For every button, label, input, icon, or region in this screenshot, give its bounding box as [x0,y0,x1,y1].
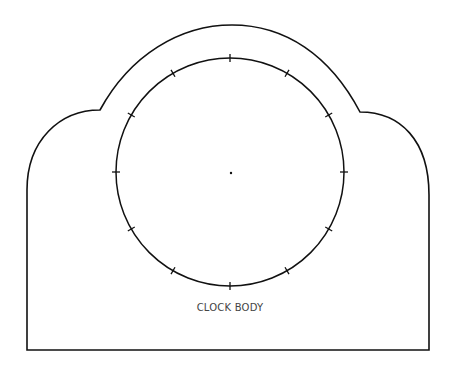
clock-body-label: CLOCK BODY [0,302,450,313]
dial-circle [116,58,344,286]
clock-body-diagram [0,0,450,369]
center-point [230,172,232,174]
hour-tick-marks [112,54,348,290]
